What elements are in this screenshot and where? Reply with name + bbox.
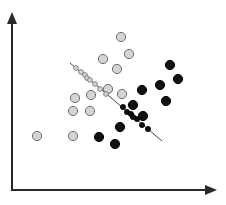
large-black-point	[110, 139, 119, 148]
large-black-point	[161, 96, 170, 105]
large-grey-point	[68, 106, 77, 115]
large-grey-point	[68, 131, 77, 140]
large-grey-point	[32, 131, 41, 140]
small-grey-point	[74, 66, 79, 71]
large-grey-point	[117, 89, 126, 98]
large-grey-point	[112, 64, 121, 73]
small-black-point	[145, 126, 150, 131]
scatter-plot	[0, 0, 226, 205]
axes	[7, 12, 217, 195]
small-grey-point	[98, 87, 103, 92]
large-black-point	[128, 100, 137, 109]
small-grey-point	[93, 82, 98, 87]
data-points	[32, 32, 182, 148]
large-black-point	[94, 132, 103, 141]
small-black-point	[134, 116, 139, 121]
x-axis-arrowhead-icon	[205, 185, 217, 195]
large-black-point	[155, 80, 164, 89]
small-black-point	[139, 122, 144, 127]
large-grey-point	[85, 106, 94, 115]
small-grey-point	[104, 92, 109, 97]
large-black-point	[115, 122, 124, 131]
large-grey-point	[116, 32, 125, 41]
small-grey-point	[88, 78, 93, 83]
large-grey-point	[124, 49, 133, 58]
large-grey-point	[86, 90, 95, 99]
large-grey-point	[98, 54, 107, 63]
small-black-point	[120, 104, 125, 109]
large-black-point	[137, 85, 146, 94]
y-axis-arrowhead-icon	[7, 12, 17, 24]
large-grey-point	[70, 93, 79, 102]
large-black-point	[173, 74, 182, 83]
large-black-point	[165, 60, 174, 69]
